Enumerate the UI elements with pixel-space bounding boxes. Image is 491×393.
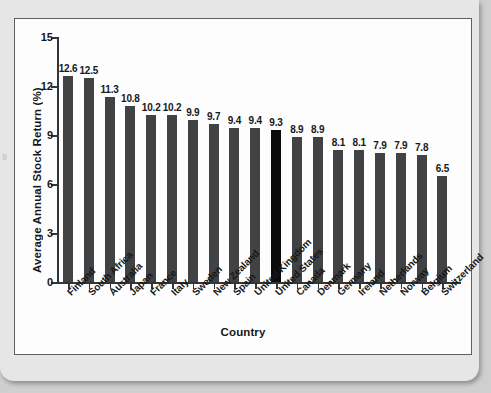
bar-sweden: 9.9: [188, 120, 198, 282]
bar-value-label: 9.3: [269, 117, 282, 128]
bar-spain: 9.4: [229, 128, 239, 282]
margin-artifact: 9: [2, 152, 7, 162]
bar-netherlands: 7.9: [375, 153, 385, 282]
x-axis-title: Country: [15, 326, 471, 338]
bar-value-label: 11.3: [101, 84, 119, 95]
bar-value-label: 8.1: [332, 137, 345, 148]
y-tick-label: 15: [41, 29, 53, 45]
bar-value-label: 8.1: [353, 137, 366, 148]
bar-value-label: 10.2: [163, 102, 182, 113]
plot-area: 03691215 12.612.511.310.810.210.29.99.79…: [57, 37, 461, 284]
bar-new-zealand: 9.7: [209, 124, 219, 282]
bar-united-states: 9.3: [271, 130, 281, 282]
bar-value-label: 8.9: [290, 124, 303, 135]
bar-finland: 12.6: [63, 76, 73, 282]
y-tick-label: 12: [41, 78, 53, 94]
y-tick-label: 3: [47, 225, 53, 241]
y-tick-label: 6: [47, 176, 53, 192]
bar-value-label: 9.7: [207, 111, 220, 122]
bar-value-label: 9.4: [249, 115, 262, 126]
y-axis-title: Average Annual Stock Return (%): [29, 65, 45, 295]
bar-value-label: 7.8: [415, 142, 428, 153]
y-tick-label: 0: [47, 274, 53, 290]
bar-value-label: 10.2: [142, 102, 161, 113]
bar-italy: 10.2: [167, 115, 177, 282]
bar-value-label: 12.5: [79, 65, 98, 76]
bar-value-label: 9.4: [228, 115, 241, 126]
bar-value-label: 10.8: [121, 93, 140, 104]
bar-value-label: 12.6: [59, 63, 78, 74]
bar-value-label: 9.9: [186, 107, 199, 118]
bar-value-label: 7.9: [373, 140, 386, 151]
bar-value-label: 6.5: [436, 163, 449, 174]
y-tick-label: 9: [47, 127, 53, 143]
bar-australia: 11.3: [105, 97, 115, 282]
bar-south-africa: 12.5: [84, 78, 94, 282]
bar-value-label: 7.9: [394, 140, 407, 151]
page-card: Average Annual Stock Return (%) 03691215…: [0, 0, 479, 381]
bar-france: 10.2: [146, 115, 156, 282]
bar-value-label: 8.9: [311, 124, 324, 135]
figure-frame: Average Annual Stock Return (%) 03691215…: [14, 18, 472, 355]
